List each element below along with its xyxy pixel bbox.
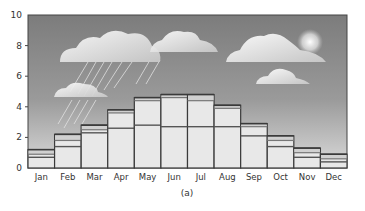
x-tick-label: Jul [195,172,206,182]
x-tick-label: Feb [60,172,75,182]
x-tick-label: Oct [273,172,288,182]
bar-top-band [55,135,80,141]
x-tick-label: Dec [325,172,342,182]
bar-body [188,95,215,168]
bar-body [134,98,161,168]
bar-jun [161,95,188,168]
x-tick-label: Nov [299,172,316,182]
bar-may [134,98,161,168]
y-tick-label: 8 [16,41,22,51]
figure-caption: (a) [181,188,194,198]
bar-body [214,105,241,168]
y-tick-label: 0 [16,163,22,173]
y-tick-label: 2 [16,132,22,142]
bar-jul [188,95,215,168]
x-axis: JanFebMarAprMayJunJulAugSepOctNovDec [34,172,343,182]
chart: 0246810 JanFebMarAprMayJunJulAugSepOctNo… [0,0,365,211]
bar-body [161,95,188,168]
bar-oct [267,136,294,168]
bar-body [81,125,108,168]
x-tick-label: Sep [246,172,262,182]
bar-aug [214,105,241,168]
y-tick-label: 4 [16,102,22,112]
bar-apr [108,110,135,168]
bar-mar [81,125,108,168]
y-axis: 0246810 [11,10,28,173]
x-tick-label: Aug [219,172,236,182]
bar-sep [241,124,268,168]
y-tick-label: 10 [11,10,23,20]
bar-top-band [188,95,213,101]
bar-feb [55,134,82,168]
x-tick-label: Mar [86,172,103,182]
x-tick-label: Apr [114,172,129,182]
bar-body [108,110,135,168]
y-tick-label: 6 [16,71,22,81]
bar-dec [320,154,347,168]
bar-nov [294,148,321,168]
x-tick-label: May [139,172,157,182]
bar-jan [28,150,55,168]
x-tick-label: Jan [34,172,48,182]
bar-body [241,124,268,168]
x-tick-label: Jun [167,172,181,182]
